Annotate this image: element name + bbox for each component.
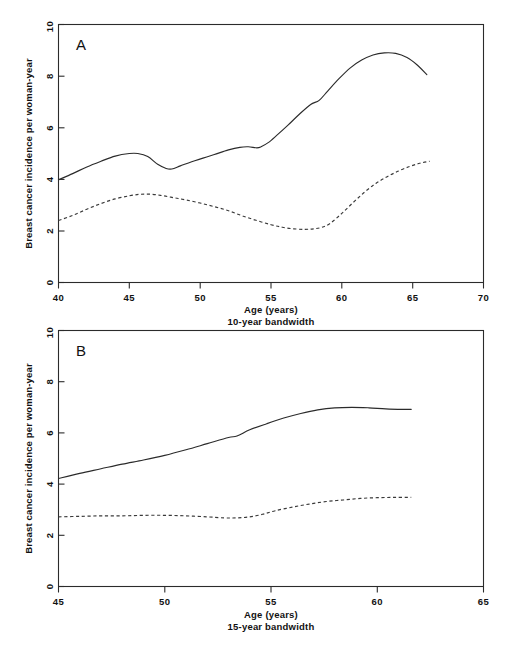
panel-b-ytick-0: 0 [44, 584, 55, 590]
panel-a-curves [59, 53, 430, 230]
panel-a-solid-curve [59, 53, 427, 180]
panel-b-x-ticklabels: 45 50 55 60 65 [53, 596, 490, 607]
panel-a-xtick-60: 60 [336, 292, 347, 303]
panel-b-xtick-65: 65 [478, 596, 490, 607]
panel-a-xtick-40: 40 [53, 292, 64, 303]
panel-b-xaxis-label: Age (years) [244, 609, 298, 620]
panel-b-xtick-45: 45 [53, 596, 65, 607]
panel-a-xtick-50: 50 [195, 292, 206, 303]
panel-a-y-ticklabels: 0 2 4 6 8 10 [44, 21, 55, 286]
panel-a-ytick-10: 10 [44, 21, 55, 32]
panel-b-ytick-2: 2 [44, 532, 55, 538]
panel-a-plot-frame [59, 25, 484, 283]
panel-b-letter: B [76, 342, 86, 359]
figure-container: 0 2 4 6 8 10 40 45 50 55 60 65 70 Age (y… [0, 0, 516, 647]
panel-b-curves [59, 407, 412, 518]
panel-b-svg: 0 2 4 6 8 10 45 50 55 60 65 Age (years) … [0, 317, 516, 647]
panel-a-xtick-70: 70 [478, 292, 489, 303]
chart-panel-b: 0 2 4 6 8 10 45 50 55 60 65 Age (years) … [0, 317, 516, 647]
panel-b-solid-curve [59, 407, 412, 478]
panel-a-ytick-8: 8 [44, 73, 55, 79]
panel-a-y-ticks [59, 25, 65, 283]
panel-b-xtick-50: 50 [159, 596, 170, 607]
panel-a-ytick-0: 0 [44, 280, 55, 286]
panel-a-ytick-6: 6 [44, 125, 55, 131]
panel-b-xtick-60: 60 [372, 596, 383, 607]
panel-a-yaxis-label: Breast cancer incidence per woman-year [23, 58, 34, 249]
chart-panel-a: 0 2 4 6 8 10 40 45 50 55 60 65 70 Age (y… [0, 0, 516, 330]
panel-b-dashed-curve [59, 497, 412, 518]
panel-a-xtick-55: 55 [265, 292, 277, 303]
panel-a-ytick-4: 4 [44, 176, 55, 182]
panel-a-svg: 0 2 4 6 8 10 40 45 50 55 60 65 70 Age (y… [0, 0, 516, 330]
panel-b-yaxis-label: Breast cancer incidence per woman-year [23, 363, 34, 554]
panel-b-y-ticks [59, 331, 65, 587]
panel-b-xaxis-sublabel: 15-year bandwidth [228, 621, 315, 632]
panel-a-letter: A [76, 36, 86, 53]
panel-a-ytick-2: 2 [44, 228, 55, 234]
panel-b-ytick-6: 6 [44, 430, 55, 436]
panel-a-x-ticks [59, 283, 484, 289]
panel-b-plot-frame [59, 331, 484, 587]
panel-a-xtick-45: 45 [124, 292, 136, 303]
panel-b-xtick-55: 55 [265, 596, 277, 607]
panel-a-xtick-65: 65 [407, 292, 419, 303]
panel-a-x-ticklabels: 40 45 50 55 60 65 70 [53, 292, 489, 303]
panel-b-ytick-10: 10 [44, 327, 55, 338]
panel-b-ytick-8: 8 [44, 379, 55, 385]
panel-b-ytick-4: 4 [44, 481, 55, 487]
panel-b-x-ticks [59, 587, 484, 593]
panel-b-y-ticklabels: 0 2 4 6 8 10 [44, 327, 55, 590]
panel-a-dashed-curve [59, 161, 430, 229]
panel-a-xaxis-label: Age (years) [244, 304, 298, 315]
